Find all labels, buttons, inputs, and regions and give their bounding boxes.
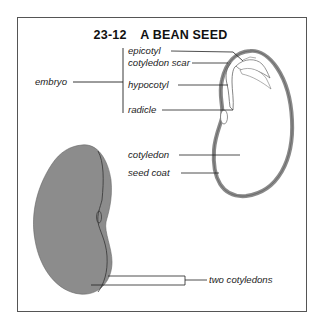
hilum-shape <box>221 110 228 124</box>
label-seed-coat: seed coat <box>128 168 170 178</box>
label-two-cotyledons: two cotyledons <box>209 275 272 285</box>
label-cotyledon-scar: cotyledon scar <box>128 58 190 68</box>
label-embryo: embryo <box>35 77 67 87</box>
whole-bean <box>34 145 112 294</box>
label-epicotyl: epicotyl <box>128 46 161 56</box>
label-hypocotyl: hypocotyl <box>128 80 169 90</box>
embryo-axis <box>226 63 236 110</box>
label-cotyledon: cotyledon <box>128 150 169 160</box>
label-radicle: radicle <box>128 105 156 115</box>
